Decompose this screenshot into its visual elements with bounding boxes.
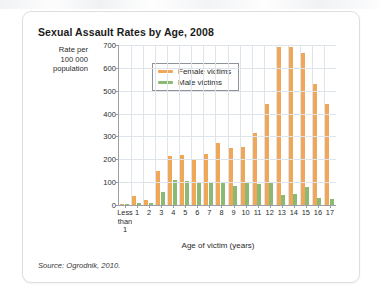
bar-female bbox=[216, 143, 220, 205]
bar-group bbox=[252, 45, 264, 205]
figure-card: Sexual Assault Rates by Age, 2008 Rate p… bbox=[22, 11, 360, 283]
x-tick-label: 10 bbox=[241, 209, 249, 218]
gridline-vertical bbox=[228, 45, 229, 205]
x-tick-label: 4 bbox=[171, 209, 175, 218]
gridline-vertical bbox=[276, 45, 277, 205]
bar-male bbox=[245, 182, 249, 205]
gridline-vertical bbox=[131, 45, 132, 205]
gridline-vertical bbox=[312, 45, 313, 205]
y-axis-label: Rate per 100 000 population bbox=[31, 45, 88, 74]
x-tick-label: 8 bbox=[219, 209, 223, 218]
gridline-vertical bbox=[215, 45, 216, 205]
bar-male bbox=[257, 184, 261, 205]
gridline-vertical bbox=[324, 45, 325, 205]
y-axis-label-line-3: population bbox=[31, 64, 88, 74]
y-tick-label: 500 bbox=[103, 86, 116, 95]
bar-male bbox=[317, 198, 321, 205]
bar-group bbox=[240, 45, 252, 205]
x-tick-label: 6 bbox=[195, 209, 199, 218]
bar-male bbox=[293, 194, 297, 205]
bar-female bbox=[120, 204, 124, 205]
x-tick-label: 9 bbox=[231, 209, 235, 218]
y-axis-label-line-2: 100 000 bbox=[31, 55, 88, 65]
bar-female bbox=[229, 148, 233, 205]
bar-male bbox=[185, 181, 189, 205]
y-tick-mark bbox=[116, 182, 119, 183]
gridline-vertical bbox=[179, 45, 180, 205]
gridline-vertical bbox=[288, 45, 289, 205]
legend-swatch-female bbox=[158, 70, 173, 73]
y-tick-mark bbox=[116, 45, 119, 46]
legend-item-male: Male victims bbox=[158, 78, 231, 87]
source-citation: Source: Ogrodnik, 2010. bbox=[38, 261, 120, 270]
gridline-vertical bbox=[252, 45, 253, 205]
x-tick-label: 2 bbox=[147, 209, 151, 218]
y-tick-label: 600 bbox=[103, 63, 116, 72]
bar-female bbox=[253, 133, 257, 205]
plot-wrapper: Female victims Male victims 010020030040… bbox=[96, 45, 340, 224]
x-tick-label: 7 bbox=[207, 209, 211, 218]
bar-group bbox=[131, 45, 143, 205]
y-tick-label: 700 bbox=[103, 41, 116, 50]
gridline-vertical bbox=[240, 45, 241, 205]
bar-male bbox=[209, 183, 213, 205]
x-tick-label: 16 bbox=[314, 209, 322, 218]
x-tick-label: 17 bbox=[326, 209, 334, 218]
gridline-vertical bbox=[264, 45, 265, 205]
x-tick-label: 1 bbox=[135, 209, 139, 218]
bar-male bbox=[305, 187, 309, 205]
gridline-vertical bbox=[143, 45, 144, 205]
gridline-vertical bbox=[155, 45, 156, 205]
bar-male bbox=[173, 180, 177, 205]
x-tick-label: Less than 1 bbox=[115, 209, 135, 235]
y-tick-mark bbox=[116, 68, 119, 69]
y-tick-mark bbox=[116, 114, 119, 115]
bar-group bbox=[288, 45, 300, 205]
bar-group bbox=[119, 45, 131, 205]
gridline-vertical bbox=[203, 45, 204, 205]
bar-female bbox=[132, 196, 136, 205]
y-tick-label: 200 bbox=[103, 155, 116, 164]
x-tick-label: 12 bbox=[266, 209, 274, 218]
x-tick-label: 11 bbox=[254, 209, 262, 218]
x-tick-label: 13 bbox=[278, 209, 286, 218]
y-tick-mark bbox=[116, 136, 119, 137]
y-tick-label: 400 bbox=[103, 109, 116, 118]
bar-male bbox=[197, 182, 201, 205]
bar-group bbox=[264, 45, 276, 205]
gridline-vertical bbox=[300, 45, 301, 205]
page-title: Sexual Assault Rates by Age, 2008 bbox=[38, 26, 214, 38]
x-tick-label: 14 bbox=[290, 209, 298, 218]
bar-female bbox=[168, 156, 172, 205]
gridline-vertical bbox=[191, 45, 192, 205]
y-axis-label-line-1: Rate per bbox=[31, 45, 88, 55]
bar-male bbox=[161, 192, 165, 205]
bar-female bbox=[241, 147, 245, 205]
bar-female bbox=[180, 155, 184, 205]
y-tick-mark bbox=[116, 205, 119, 206]
bar-female bbox=[144, 200, 148, 205]
bar-female bbox=[313, 84, 317, 205]
bar-group bbox=[312, 45, 324, 205]
scan-artifact bbox=[0, 0, 380, 9]
legend-swatch-male bbox=[158, 81, 173, 84]
bar-male bbox=[281, 195, 285, 205]
plot-area: Female victims Male victims 010020030040… bbox=[118, 45, 336, 206]
bar-female bbox=[265, 104, 269, 205]
bar-group bbox=[300, 45, 312, 205]
bar-male bbox=[233, 186, 237, 205]
bar-group bbox=[324, 45, 336, 205]
bar-female bbox=[325, 104, 329, 205]
bar-female bbox=[156, 171, 160, 205]
x-tick-label: 3 bbox=[159, 209, 163, 218]
bar-female bbox=[204, 154, 208, 205]
bar-male bbox=[269, 182, 273, 205]
y-tick-label: 100 bbox=[103, 178, 116, 187]
gridline-vertical bbox=[167, 45, 168, 205]
bar-group bbox=[276, 45, 288, 205]
x-tick-label: 15 bbox=[302, 209, 310, 218]
x-axis-title: Age of victim (years) bbox=[96, 241, 340, 250]
y-tick-mark bbox=[116, 91, 119, 92]
y-tick-label: 300 bbox=[103, 132, 116, 141]
y-tick-mark bbox=[116, 159, 119, 160]
